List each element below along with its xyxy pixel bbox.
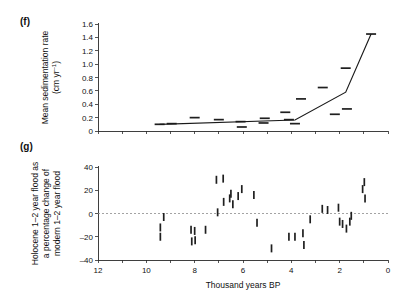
panel-f-y-axis-title: Mean sedimentation rate(cm yr–1) [40, 30, 61, 124]
panel-g-x-tick-label: 2 [337, 266, 342, 275]
panel-f-y-tick-label: 0.8 [82, 74, 94, 83]
panel-f-y-tick-label: 0.4 [82, 100, 94, 109]
panel-f-y-tick-label: 1.4 [82, 33, 94, 42]
x-axis-title-group: Thousand years BP [206, 280, 281, 290]
panel-g-x-tick-label: 4 [289, 266, 294, 275]
scientific-figure-svg: 00.20.40.60.81.01.21.41.6Mean sedimentat… [0, 0, 412, 295]
svg-text:(cm yr–1): (cm yr–1) [51, 61, 61, 94]
panel-g-y-tick-label: 40 [84, 163, 93, 172]
panel-g-y-tick-label: 0 [89, 210, 94, 219]
figure-container: (f) (g) 00.20.40.60.81.01.21.41.6Mean se… [0, 0, 412, 295]
panel-g-y-tick-label: –40 [80, 256, 94, 265]
svg-text:a percentage change of: a percentage change of [41, 168, 51, 258]
panel-f-sedimentation-chart: 00.20.40.60.81.01.21.41.6Mean sedimentat… [40, 20, 388, 136]
panel-f-trend-line [160, 34, 371, 124]
panel-g-x-tick-label: 8 [192, 266, 197, 275]
panel-g-x-tick-label: 12 [94, 266, 103, 275]
svg-text:Mean sedimentation rate: Mean sedimentation rate [40, 30, 50, 124]
panel-f-y-tick-label: 1.2 [82, 47, 94, 56]
svg-text:modern 1–2 year flood: modern 1–2 year flood [52, 171, 62, 256]
panel-g-y-axis-title: Holocene 1–2 year flood asa percentage c… [30, 162, 62, 266]
svg-text:Holocene 1–2 year flood as: Holocene 1–2 year flood as [30, 162, 40, 266]
panel-f-y-tick-label: 0 [89, 127, 94, 136]
panel-f-y-tick-label: 1.0 [82, 60, 94, 69]
panel-g-y-tick-label: 20 [84, 186, 93, 195]
panel-g-x-tick-label: 0 [386, 266, 391, 275]
panel-f-y-tick-label: 1.6 [82, 20, 94, 29]
panel-f-y-tick-label: 0.6 [82, 87, 94, 96]
panel-g-x-tick-label: 10 [142, 266, 151, 275]
panel-g-x-tick-label: 6 [241, 266, 246, 275]
panel-g-y-tick-label: –20 [80, 233, 94, 242]
x-axis-title: Thousand years BP [206, 280, 281, 290]
panel-g-flood-change-chart: –40–2002040121086420Holocene 1–2 year fl… [30, 162, 391, 275]
panel-f-y-tick-label: 0.2 [82, 114, 94, 123]
